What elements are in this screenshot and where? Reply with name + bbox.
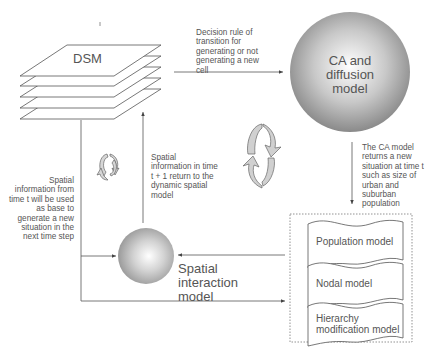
cycle-icon-large [243, 124, 281, 188]
hierarchy-label-line: Hierarchy [316, 313, 399, 324]
spatial-label-line: Spatial [178, 262, 238, 276]
edge-label-line: generate a new [4, 214, 74, 223]
edge-label-line: such as size of [362, 171, 424, 180]
edge-label-line: suburban [362, 190, 424, 199]
spatial-label-line: interaction [178, 276, 238, 290]
ca-label-line: model [318, 82, 382, 96]
edge-label-spatial-info-time-t: Spatial information from time t will be … [4, 176, 74, 242]
edge-label-line: next time step [4, 232, 74, 241]
edge-label-line: cell [196, 66, 259, 75]
edge-label-line: returns a new [362, 152, 424, 161]
edge-label-line: The CA model [362, 143, 424, 152]
edge-label-line: transition for [196, 37, 259, 46]
edge-label-ca-returns: The CA model returns a new situation at … [362, 143, 424, 209]
edge-label-line: urban and [362, 181, 424, 190]
ca-label-line: diffusion [318, 68, 382, 82]
spatial-interaction-label: Spatial interaction model [178, 262, 238, 304]
edge-label-line: Decision rule of [196, 28, 259, 37]
edge-label-decision-rule: Decision rule of transition for generati… [196, 28, 259, 75]
edge-label-line: as base to [4, 204, 74, 213]
edge-label-line: dynamic spatial [151, 181, 218, 190]
edge-label-line: generating a new [196, 56, 259, 65]
edge-label-spatial-info-t-plus-1: Spatial information in time t + 1 return… [151, 153, 218, 200]
cycle-icon-small [97, 154, 119, 180]
edge-label-line: model [151, 191, 218, 200]
edge-label-line: information from [4, 185, 74, 194]
edge-label-line: time t will be used [4, 195, 74, 204]
population-model-label: Population model [316, 236, 393, 247]
ca-model-label: CA and diffusion model [318, 54, 382, 96]
nodal-model-label: Nodal model [316, 278, 372, 289]
hierarchy-label-line: modification model [316, 324, 399, 335]
ca-label-line: CA and [318, 54, 382, 68]
edge-label-line: situation in the [4, 223, 74, 232]
spatial-interaction-sphere [118, 228, 174, 284]
edge-label-line: information in time [151, 162, 218, 171]
edge-label-line: situation at time t [362, 162, 424, 171]
hierarchy-model-label: Hierarchy modification model [316, 313, 399, 335]
spatial-label-line: model [178, 290, 238, 304]
edge-label-line: t + 1 return to the [151, 172, 218, 181]
edge-label-line: generating or not [196, 47, 259, 56]
edge-label-line: Spatial [151, 153, 218, 162]
dsm-label: DSM [73, 52, 102, 66]
edge-label-line: population [362, 199, 424, 208]
edge-label-line: Spatial [4, 176, 74, 185]
